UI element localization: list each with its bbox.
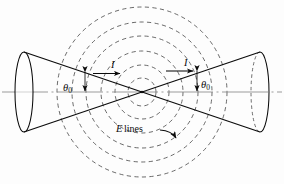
- current-label-right: I: [184, 58, 188, 69]
- e-field-symbol: E: [116, 123, 124, 134]
- theta-label-right: θ0: [201, 80, 210, 92]
- theta-subscript-right: 0: [206, 83, 210, 92]
- elines-leader-arrow: [160, 130, 176, 138]
- cone-apex-point: [141, 91, 143, 93]
- theta-label-left: θ0: [63, 83, 72, 95]
- biconical-antenna-figure: θ0 θ0 I I Elines: [0, 0, 284, 184]
- e-lines-label: Elines: [116, 124, 143, 135]
- right-cone-lower-edge: [142, 92, 260, 132]
- e-lines-text: lines: [124, 123, 143, 134]
- left-cone-base-ellipse: [15, 52, 33, 132]
- current-label-left: I: [111, 60, 115, 71]
- figure-canvas: [0, 0, 284, 184]
- theta-subscript-left: 0: [68, 86, 72, 95]
